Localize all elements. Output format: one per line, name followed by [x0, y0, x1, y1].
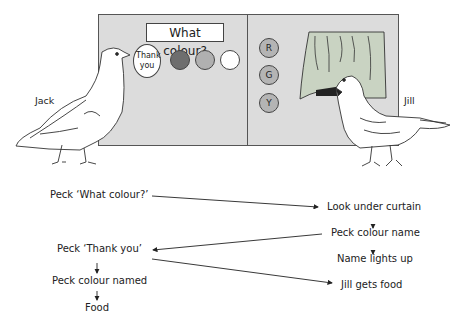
- jack-label: Jack: [35, 95, 54, 106]
- jill-label: Jill: [404, 95, 415, 106]
- jill-pigeon-icon: [336, 76, 450, 166]
- flow-peck-thank-you: Peck ‘Thank you’: [57, 243, 142, 254]
- flow-jill-gets-food: Jill gets food: [341, 279, 402, 290]
- flow-peck-what-colour: Peck ‘What colour?’: [50, 189, 148, 200]
- flow-name-lights-up: Name lights up: [337, 253, 413, 264]
- flow-peck-colour-name: Peck colour name: [331, 227, 420, 238]
- flow-food: Food: [85, 302, 109, 313]
- flow-peck-colour-named: Peck colour named: [52, 275, 147, 286]
- flow-look-under-curtain: Look under curtain: [327, 201, 421, 212]
- jack-pigeon-icon: [16, 48, 130, 164]
